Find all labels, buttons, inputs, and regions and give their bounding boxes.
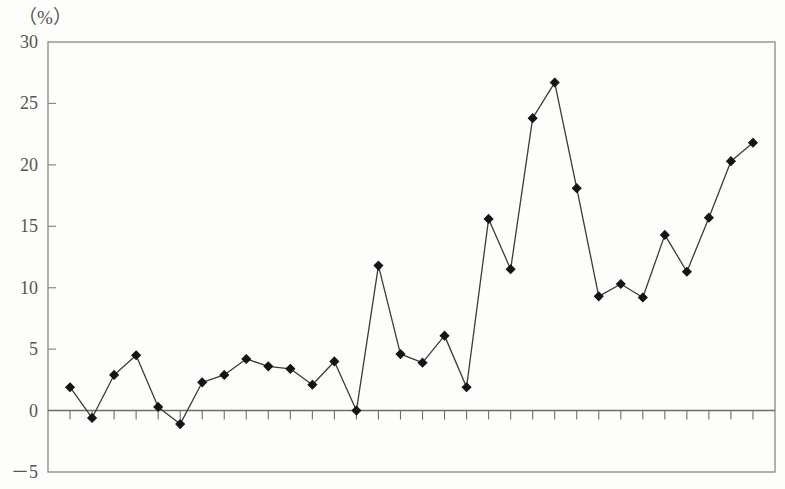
data-point-marker [550, 78, 559, 87]
data-series-line [70, 83, 753, 425]
data-point-marker [242, 355, 251, 364]
y-axis-tick-label: 10 [20, 278, 38, 298]
data-point-marker [264, 362, 273, 371]
data-point-marker [374, 261, 383, 270]
data-point-marker [506, 265, 515, 274]
data-point-marker [352, 406, 361, 415]
y-axis-tick-labels: 302520151050－5 [11, 32, 38, 482]
data-point-marker [705, 213, 714, 222]
y-axis-tick-label: －5 [11, 462, 38, 482]
chart-plot-area: 302520151050－5 [0, 0, 785, 489]
data-point-marker [198, 378, 207, 387]
data-point-marker [616, 280, 625, 289]
data-point-marker [220, 371, 229, 380]
data-point-marker [528, 114, 537, 123]
line-chart-figure: （%） 302520151050－5 [0, 0, 785, 489]
data-point-marker [594, 292, 603, 301]
data-point-marker [639, 293, 648, 302]
chart-page: （%） 302520151050－5 [0, 0, 785, 489]
y-axis-tick-label: 30 [20, 32, 38, 52]
y-axis-tick-label: 5 [29, 339, 38, 359]
y-axis-tick-label: 25 [20, 93, 38, 113]
y-axis-tick-label: 20 [20, 155, 38, 175]
data-point-marker [396, 350, 405, 359]
y-axis-tick-marks [48, 103, 56, 349]
data-point-marker [88, 414, 97, 423]
data-point-marker [572, 184, 581, 193]
data-point-marker [462, 383, 471, 392]
series-polyline [70, 83, 753, 425]
data-point-marker [484, 215, 493, 224]
y-axis-tick-label: 0 [29, 401, 38, 421]
data-point-marker [661, 231, 670, 240]
data-point-markers [66, 78, 758, 428]
data-point-marker [66, 383, 75, 392]
data-point-marker [286, 365, 295, 374]
y-axis-tick-label: 15 [20, 216, 38, 236]
data-point-marker [683, 267, 692, 276]
